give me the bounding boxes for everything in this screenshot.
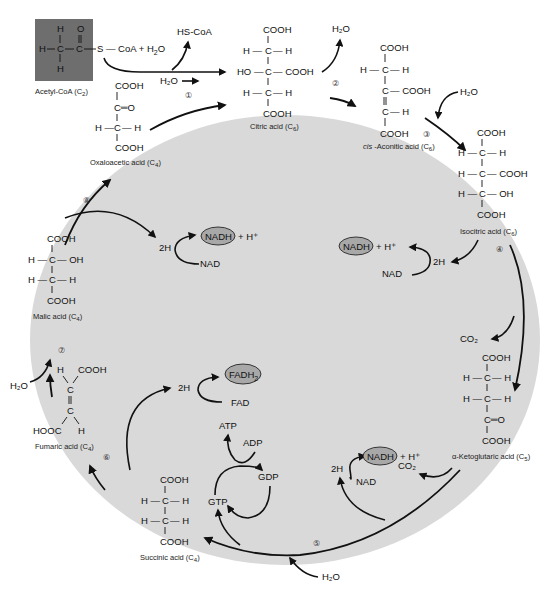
svg-text:— H: — H [390, 106, 409, 117]
svg-text:H —: H — [458, 168, 478, 179]
malic-acid-label: Malic acid (C4) [33, 312, 83, 322]
step-1-number: ① [185, 91, 192, 100]
ketoglutaric-acid-label: α-Ketoglutaric acid (C5) [452, 452, 531, 462]
svg-text:C: C [382, 85, 389, 96]
svg-text:C: C [382, 106, 389, 117]
svg-text:H —: H — [463, 393, 483, 404]
svg-text:COOH: COOH [477, 127, 506, 138]
svg-text:NADH: NADH [343, 241, 370, 252]
svg-text:H: H [57, 63, 64, 74]
svg-text:C: C [162, 495, 169, 506]
step-5-number: ⑤ [313, 539, 320, 548]
svg-text:C: C [479, 188, 486, 199]
cis-aconitic-acid-label: cis -Aconitic acid (C6) [363, 142, 435, 152]
svg-text:— H: — H [170, 495, 189, 506]
svg-text:COOH: COOH [115, 80, 144, 91]
svg-text:H —: H — [243, 87, 263, 98]
svg-text:— OH: — OH [487, 188, 514, 199]
svg-text:C: C [49, 254, 56, 265]
svg-text:— H: — H [122, 122, 141, 133]
svg-text:H —: H — [463, 372, 483, 383]
svg-text:— COOH: — COOH [390, 85, 431, 96]
svg-text:C: C [67, 405, 74, 416]
svg-text:2H: 2H [331, 463, 343, 474]
svg-text:NADH: NADH [205, 231, 232, 242]
svg-text:— H: — H [487, 147, 506, 158]
svg-text:— H: — H [273, 45, 292, 56]
acetyl-coa-molecule: H O H C C H S — CoA + H2O Acetyl-CoA (C2… [35, 19, 165, 97]
svg-text:NAD: NAD [200, 258, 220, 269]
svg-text:C: C [265, 45, 272, 56]
svg-text:+ H⁺: + H⁺ [238, 231, 258, 242]
svg-text:COOH: COOH [47, 233, 76, 244]
svg-text:ATP: ATP [219, 420, 237, 431]
svg-text:ADP: ADP [243, 437, 263, 448]
h2o-step1-label: H₂O [160, 75, 178, 86]
svg-text:C: C [484, 372, 491, 383]
svg-text:— H: — H [57, 274, 76, 285]
h2o-step3-label: H₂O [460, 86, 478, 97]
svg-text:— COOH: — COOH [273, 66, 314, 77]
svg-text:C═O: C═O [484, 414, 505, 425]
svg-text:2H: 2H [433, 256, 445, 267]
svg-text:C: C [484, 393, 491, 404]
svg-text:COOH: COOH [263, 24, 292, 35]
svg-text:+ H⁺: + H⁺ [400, 451, 420, 462]
svg-text:COOH: COOH [47, 295, 76, 306]
svg-text:H —: H — [360, 64, 380, 75]
svg-text:NAD: NAD [382, 268, 402, 279]
h2o-step2-label: H₂O [332, 23, 350, 34]
svg-text:— H: — H [390, 64, 409, 75]
svg-text:NAD: NAD [356, 476, 376, 487]
svg-text:H —: H — [458, 188, 478, 199]
hs-coa-label: HS-CoA [177, 26, 213, 37]
svg-text:FAD: FAD [231, 397, 250, 408]
svg-text:— H: — H [170, 515, 189, 526]
succinic-acid-label: Succinic acid (C4) [140, 553, 200, 563]
step-7-number: ⑦ [58, 346, 65, 355]
svg-text:H: H [57, 23, 64, 34]
fumaric-acid-label: Fumaric acid (C4) [35, 442, 94, 452]
svg-text:HOOC: HOOC [33, 425, 62, 436]
acetyl-coa-formula-tail: S — CoA + H2O [97, 43, 165, 56]
h2o-step2-arrow [322, 40, 340, 72]
svg-text:NADH: NADH [367, 451, 394, 462]
svg-text:C: C [479, 147, 486, 158]
svg-text:COOH: COOH [115, 142, 144, 153]
svg-text:C: C [382, 64, 389, 75]
svg-text:COOH: COOH [160, 474, 189, 485]
svg-text:— H: — H [273, 87, 292, 98]
acetyl-coa-label: Acetyl-CoA (C2) [35, 87, 88, 97]
svg-text:COOH: COOH [482, 435, 511, 446]
svg-text:— COOH: — COOH [487, 168, 528, 179]
svg-text:HO —: HO — [237, 66, 264, 77]
svg-text:H: H [39, 43, 46, 54]
svg-text:COOH: COOH [380, 128, 409, 139]
svg-text:C: C [162, 515, 169, 526]
citric-acid-label: Citric acid (C6) [250, 122, 299, 132]
svg-text:C═O: C═O [114, 102, 135, 113]
svg-text:2H: 2H [159, 242, 171, 253]
svg-text:C: C [67, 384, 74, 395]
hs-coa-release-arrow [172, 42, 188, 70]
oxaloacetic-acid-label: Oxaloacetic acid (C4) [90, 158, 161, 168]
svg-text:H: H [57, 364, 64, 375]
step-4-number: ④ [496, 245, 503, 254]
h2o-step5-label: H₂O [322, 571, 340, 582]
svg-text:H —: H — [141, 495, 161, 506]
svg-text:COOH: COOH [477, 209, 506, 220]
svg-text:H —: H — [95, 122, 115, 133]
svg-text:COOH: COOH [160, 536, 189, 547]
svg-text:— H: — H [492, 393, 511, 404]
isocitric-acid-label: Isocitric acid (C6) [460, 227, 518, 237]
svg-text:O: O [77, 23, 84, 34]
svg-text:C: C [57, 43, 64, 54]
svg-text:— OH: — OH [57, 254, 84, 265]
step-3-number: ③ [423, 130, 430, 139]
svg-text:H —: H — [28, 254, 48, 265]
svg-text:C: C [114, 122, 121, 133]
step-2-number: ② [332, 79, 339, 88]
svg-text:COOH: COOH [78, 364, 107, 375]
svg-text:H —: H — [141, 515, 161, 526]
svg-text:C: C [49, 274, 56, 285]
